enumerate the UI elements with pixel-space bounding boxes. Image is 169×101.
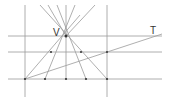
point [44, 78, 46, 80]
point [65, 78, 67, 80]
ray-6 [66, 5, 95, 36]
transversal-line [25, 34, 162, 79]
ray-5 [40, 5, 107, 79]
perspective-diagram: V T [0, 0, 169, 101]
point [50, 51, 52, 53]
point [24, 78, 26, 80]
point [80, 51, 82, 53]
point [106, 51, 108, 53]
vertex-point [65, 35, 68, 38]
vertex-label: V [53, 28, 60, 38]
transversal-label: T [150, 26, 156, 36]
point [85, 78, 87, 80]
diagram-canvas [0, 0, 169, 101]
ray-1 [25, 15, 80, 79]
ray-4 [57, 5, 86, 79]
point [106, 78, 108, 80]
